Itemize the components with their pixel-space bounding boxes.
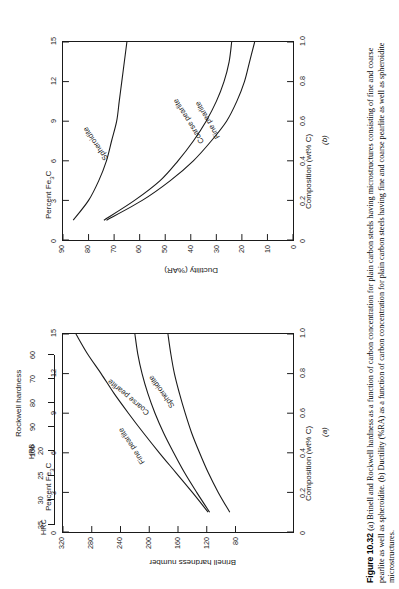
ytick-label: 240	[115, 537, 124, 559]
hrb-tick-label: 80	[28, 395, 37, 411]
xtick-label: 0.6	[298, 113, 307, 129]
xtick-label: 0.8	[298, 365, 307, 381]
percent-fe3c-subscript-b: 3	[49, 177, 55, 180]
curves-a	[63, 334, 293, 532]
chart-panel-a: Rockwell hardness HRC HRB 20253035607080…	[8, 305, 348, 577]
ytick-label: 20	[237, 245, 246, 267]
hrb-tick-label: 90	[28, 419, 37, 435]
xtick-label: 1.0	[298, 33, 307, 49]
percent-fe3c-tail-b: C	[44, 171, 53, 177]
ytick-label: 280	[86, 537, 95, 559]
ytick-label: 60	[134, 245, 143, 267]
plot-frame-a	[62, 333, 294, 533]
ytick-label: 50	[160, 245, 169, 267]
ductility-title: Ductility (%AR)	[164, 266, 218, 275]
xtick-label: 0.6	[298, 405, 307, 421]
percent-fe3c-subscript: 3	[49, 469, 55, 472]
hrc-tick-label: 20	[36, 444, 45, 458]
xtick-label: 0.8	[298, 73, 307, 89]
hrb-tick	[48, 426, 54, 427]
top-xtick-label: 15	[49, 325, 58, 341]
panel-id-b: (b)	[320, 135, 329, 145]
top-xtick-label: 12	[49, 365, 58, 381]
ytick-label: 0	[289, 245, 298, 267]
plot-area-a: 00.20.40.60.81.0 80120160200240280320 03…	[62, 333, 294, 533]
ytick-label: 40	[186, 245, 195, 267]
composition-title-b: Composition (wt% C)	[304, 134, 313, 209]
hrb-tick-label: 70	[28, 371, 37, 387]
hrb-tick-label: 60	[28, 347, 37, 363]
ytick-label: 70	[109, 245, 118, 267]
percent-fe3c-tail: C	[44, 463, 53, 469]
xtick-label: 1.0	[298, 325, 307, 341]
top-xtick-label: 6	[49, 153, 58, 169]
ytick-label: 90	[57, 245, 66, 267]
panel-id-a: (a)	[320, 427, 329, 437]
composition-title-a: Composition (wt% C)	[304, 426, 313, 501]
top-xtick-label: 9	[49, 113, 58, 129]
ytick-label: 200	[144, 537, 153, 559]
ytick-label: 160	[173, 537, 182, 559]
xtick-label: 0	[298, 233, 307, 249]
hrb-tick	[48, 402, 54, 403]
hrb-tick	[48, 354, 54, 355]
ytick-label: 80	[83, 245, 92, 267]
rockwell-title: Rockwell hardness	[14, 370, 23, 437]
top-xtick-label: 3	[49, 193, 58, 209]
figure-caption: Figure 10.32 (a) Brinell and Rockwell ha…	[365, 23, 397, 583]
figure-number: Figure 10.32	[365, 533, 375, 583]
ytick-label: 120	[202, 537, 211, 559]
top-xtick-label: 12	[49, 73, 58, 89]
figure-caption-text: (a) Brinell and Rockwell hardness as a f…	[366, 43, 396, 583]
plot-area-b: 00.20.40.60.81.0 0102030405060708090 036…	[62, 41, 294, 241]
figure-page: Rockwell hardness HRC HRB 20253035607080…	[0, 0, 399, 589]
top-xtick-label: 3	[49, 485, 58, 501]
top-xtick-label: 0	[49, 233, 58, 249]
brinell-title: Brinell hardness number	[149, 558, 236, 567]
top-xtick-label: 0	[49, 525, 58, 541]
hrb-tick-label: 100	[28, 443, 37, 459]
ytick-label: 30	[212, 245, 221, 267]
ytick-label: 10	[263, 245, 272, 267]
chart-panel-b: Percent Fe3C 00.20.40.60.81.0 0102030405…	[8, 13, 348, 285]
hrc-tick-label: 35	[36, 518, 45, 532]
top-xtick-label: 15	[49, 33, 58, 49]
rotated-page: Rockwell hardness HRC HRB 20253035607080…	[0, 0, 399, 589]
top-xtick-label: 6	[49, 445, 58, 461]
top-xtick-label: 9	[49, 405, 58, 421]
ytick-label: 80	[231, 537, 240, 559]
ytick-label: 320	[57, 537, 66, 559]
xtick-label: 0	[298, 525, 307, 541]
